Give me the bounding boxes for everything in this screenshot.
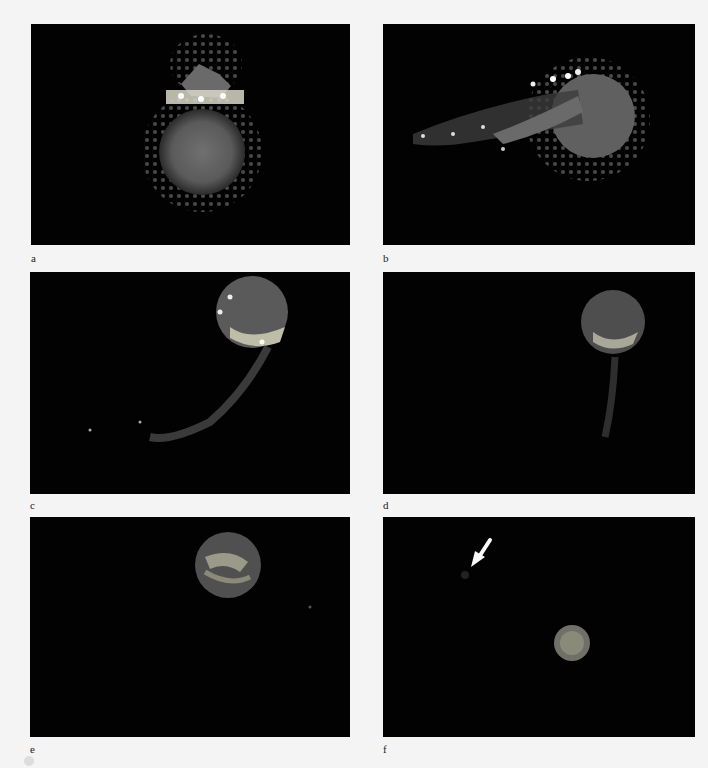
panel-a-image xyxy=(31,24,350,245)
arrow-icon xyxy=(471,540,490,567)
panel-label-a: a xyxy=(31,252,36,264)
cell-fusion-image-b xyxy=(383,24,695,245)
cell-fusion-image-c xyxy=(30,272,350,494)
cell-fusion-image-d xyxy=(383,272,695,494)
panel-label-d: d xyxy=(383,499,389,511)
cell-fusion-image-f xyxy=(383,517,695,737)
panel-c-image xyxy=(30,272,350,494)
corner-mark xyxy=(24,756,34,766)
panel-label-b: b xyxy=(383,252,389,264)
cell-fusion-image-e xyxy=(30,517,350,737)
panel-label-c: c xyxy=(30,499,35,511)
panel-d-image xyxy=(383,272,695,494)
panel-b-image xyxy=(383,24,695,245)
panel-label-f: f xyxy=(383,743,387,755)
cell-fusion-image-a xyxy=(31,24,350,245)
panel-e-image xyxy=(30,517,350,737)
panel-f-image xyxy=(383,517,695,737)
panel-label-e: e xyxy=(30,743,35,755)
